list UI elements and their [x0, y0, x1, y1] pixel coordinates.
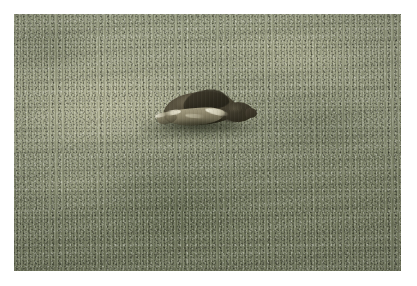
- turtle-contact-shadow: [159, 121, 243, 131]
- turtle-snout: [245, 108, 258, 119]
- turtle: [149, 88, 257, 140]
- photo-mat-border: [0, 0, 417, 286]
- photograph: [14, 14, 401, 271]
- photo-grain-texture: [14, 14, 401, 271]
